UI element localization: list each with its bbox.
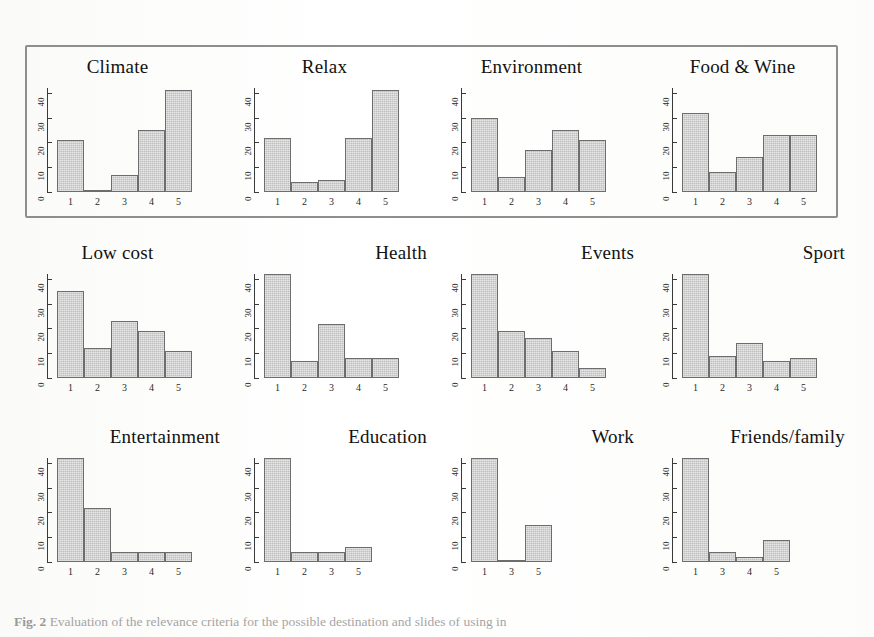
y-tick: [47, 562, 52, 563]
bar-slot: [111, 274, 138, 378]
bar: [264, 138, 291, 192]
figure-caption: Fig. 2 Evaluation of the relevance crite…: [14, 614, 860, 631]
y-tick: [47, 378, 52, 379]
bar: [471, 274, 498, 378]
bar: [471, 458, 498, 562]
chart-panel-work: Work010203040135: [429, 422, 634, 592]
plot-area: 01020304012345: [467, 88, 617, 192]
y-tick: [254, 378, 259, 379]
y-tick-label: 20: [451, 147, 460, 156]
y-tick-label: 10: [662, 358, 671, 367]
y-tick: [254, 463, 259, 464]
y-tick-label: 40: [37, 283, 46, 292]
chart-panel-climate: Climate01020304012345: [15, 52, 220, 222]
y-tick: [47, 537, 52, 538]
y-tick: [461, 279, 466, 280]
y-tick-label: 20: [37, 147, 46, 156]
bar: [57, 291, 84, 378]
y-tick-label: 30: [662, 492, 671, 501]
bar-slot: [138, 274, 165, 378]
bar: [264, 458, 291, 562]
bar-series: [264, 88, 399, 192]
y-tick: [47, 142, 52, 143]
x-tick-label: 1: [471, 382, 498, 393]
chart-title: Climate: [15, 56, 220, 78]
bar-slot: [291, 458, 318, 562]
chart-title: Work: [429, 426, 648, 448]
y-tick-label: 30: [244, 122, 253, 131]
caption-text: Evaluation of the relevance criteria for…: [50, 614, 507, 629]
bar: [345, 358, 372, 378]
bar: [264, 274, 291, 378]
y-tick: [461, 512, 466, 513]
x-axis-labels: 135: [471, 566, 552, 577]
bar-slot: [318, 458, 345, 562]
bar-series: [682, 88, 817, 192]
y-tick-label: 0: [37, 383, 46, 388]
x-tick-label: 1: [264, 382, 291, 393]
y-tick: [254, 93, 259, 94]
x-tick-label: 1: [57, 196, 84, 207]
bar: [790, 358, 817, 378]
bar: [111, 552, 138, 562]
y-tick: [672, 279, 677, 280]
y-tick-label: 0: [662, 383, 671, 388]
chart-title: Food & Wine: [640, 56, 845, 78]
y-tick: [461, 93, 466, 94]
bar-slot: [291, 274, 318, 378]
x-tick-label: 5: [345, 566, 372, 577]
figure-root: Climate01020304012345Relax01020304012345…: [0, 0, 874, 637]
bar: [525, 338, 552, 378]
x-tick-label: 2: [498, 382, 525, 393]
bar: [763, 540, 790, 562]
y-tick: [672, 562, 677, 563]
plot-area: 01020304012345: [678, 274, 828, 378]
chart-panel-relax: Relax01020304012345: [222, 52, 427, 222]
bar-slot: [372, 274, 399, 378]
x-tick-label: 2: [291, 566, 318, 577]
bar-slot: [318, 274, 345, 378]
x-tick-label: 4: [763, 196, 790, 207]
bar-slot: [763, 274, 790, 378]
bar-series: [57, 88, 192, 192]
bar-slot: [372, 88, 399, 192]
chart-title: Health: [222, 242, 441, 264]
bar: [525, 525, 552, 562]
plot-area: 01020304012345: [678, 88, 828, 192]
x-tick-label: 2: [291, 196, 318, 207]
bar: [498, 177, 525, 192]
caption-label: Fig. 2: [14, 614, 46, 629]
y-tick: [254, 512, 259, 513]
bar-series: [682, 274, 817, 378]
bar: [682, 458, 709, 562]
bar-slot: [498, 458, 525, 562]
y-tick-label: 10: [451, 172, 460, 181]
bar: [372, 358, 399, 378]
bar-slot: [525, 88, 552, 192]
bar-slot: [471, 88, 498, 192]
bar-slot: [682, 274, 709, 378]
bar: [709, 172, 736, 192]
x-tick-label: 4: [552, 382, 579, 393]
y-tick-label: 40: [451, 97, 460, 106]
y-axis: [254, 458, 261, 562]
y-tick: [254, 537, 259, 538]
y-tick-label: 10: [662, 172, 671, 181]
x-axis-labels: 12345: [471, 196, 606, 207]
x-tick-label: 1: [57, 566, 84, 577]
y-tick: [47, 279, 52, 280]
x-tick-label: 5: [165, 196, 192, 207]
x-tick-label: 1: [57, 382, 84, 393]
bar-slot: [318, 88, 345, 192]
x-tick-label: 1: [264, 196, 291, 207]
x-axis-labels: 12345: [264, 382, 399, 393]
x-axis-labels: 12345: [57, 566, 192, 577]
y-axis: [672, 274, 679, 378]
y-tick-label: 40: [451, 467, 460, 476]
bar: [165, 90, 192, 192]
y-axis: [461, 458, 468, 562]
y-tick: [47, 304, 52, 305]
chart-title: Education: [222, 426, 441, 448]
x-tick-label: 5: [763, 566, 790, 577]
x-tick-label: 2: [84, 382, 111, 393]
